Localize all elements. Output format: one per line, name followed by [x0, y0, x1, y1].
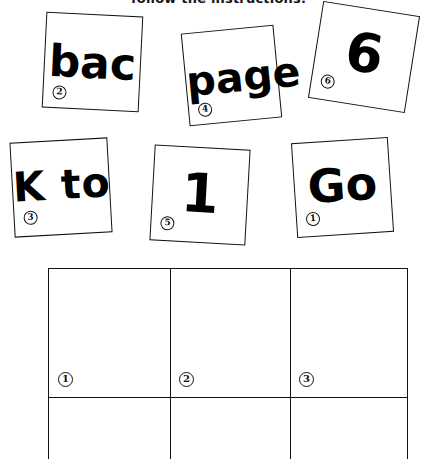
word-card-text: 1 — [152, 164, 249, 223]
word-card-bac[interactable]: bac 2 — [42, 12, 144, 113]
word-card-6[interactable]: 6 6 — [308, 1, 420, 113]
answer-cell-row1-col1[interactable] — [49, 269, 170, 397]
word-card-number-badge: 3 — [23, 210, 38, 225]
word-card-page[interactable]: page 4 — [181, 25, 282, 126]
answer-cell-row1-col2[interactable] — [170, 269, 290, 397]
word-card-text: Go — [293, 159, 391, 211]
word-card-1[interactable]: 1 5 — [149, 144, 250, 245]
word-card-number-badge: 1 — [306, 212, 321, 227]
word-card-go[interactable]: Go 1 — [291, 137, 394, 238]
answer-cell-row2-col3[interactable] — [290, 397, 409, 459]
answer-grid: 1 2 3 — [48, 268, 408, 459]
answer-cell-row2-col1[interactable] — [49, 397, 170, 459]
word-card-number-badge: 2 — [52, 85, 67, 100]
worksheet-page: follow the instructions. bac 2 page 4 6 … — [0, 0, 437, 459]
answer-cell-row1-col3[interactable] — [290, 269, 409, 397]
word-card-text: bac — [44, 39, 141, 88]
word-card-text: K to — [12, 162, 110, 208]
answer-cell-row2-col2[interactable] — [170, 397, 290, 459]
word-card-number-badge: 4 — [198, 102, 213, 117]
word-card-text: page — [185, 54, 280, 104]
word-card-k-to[interactable]: K to 3 — [9, 137, 112, 237]
instruction-text: follow the instructions. — [0, 0, 437, 6]
word-card-number-badge: 5 — [160, 216, 175, 231]
